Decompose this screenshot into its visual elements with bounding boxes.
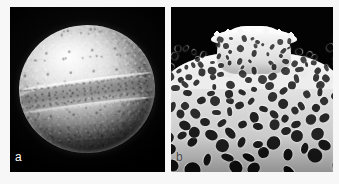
panel-a-pollen-grain: a bbox=[10, 7, 165, 172]
exine-pore bbox=[251, 86, 259, 93]
exine-pore bbox=[261, 43, 265, 47]
exine-pore bbox=[171, 51, 179, 60]
exine-pore bbox=[251, 50, 257, 57]
exine-pore bbox=[271, 65, 276, 71]
exine-pore bbox=[248, 58, 253, 63]
exine-pore bbox=[277, 39, 284, 46]
exine-pore bbox=[189, 62, 195, 69]
exine-pore bbox=[225, 89, 234, 98]
exine-pore bbox=[234, 101, 245, 111]
exine-pore bbox=[212, 84, 216, 90]
exine-pore bbox=[295, 49, 303, 57]
exine-pore bbox=[227, 60, 232, 66]
exine-pore bbox=[332, 159, 333, 171]
exine-pore bbox=[313, 66, 322, 75]
exine-pore bbox=[317, 89, 323, 97]
exine-pore bbox=[171, 85, 180, 91]
pollen-grain-body bbox=[15, 20, 160, 157]
exine-pore bbox=[226, 97, 236, 105]
grain-rim-highlight bbox=[15, 20, 160, 157]
exine-pore bbox=[302, 89, 312, 99]
exine-pore bbox=[244, 76, 252, 83]
exine-pore bbox=[195, 95, 206, 105]
exine-pore bbox=[226, 106, 232, 116]
exine-pore bbox=[223, 43, 229, 49]
exine-pore bbox=[176, 130, 188, 141]
exine-pore bbox=[283, 148, 294, 161]
exine-pore bbox=[217, 72, 224, 78]
exine-pore bbox=[175, 68, 182, 75]
exine-pore bbox=[249, 110, 260, 123]
exine-pore bbox=[287, 46, 291, 50]
exine-pore bbox=[290, 129, 305, 144]
exine-pore bbox=[310, 60, 316, 66]
exine-pore bbox=[237, 119, 248, 129]
exine-pore bbox=[191, 50, 196, 55]
exine-pore bbox=[185, 74, 192, 80]
exine-pore bbox=[245, 160, 262, 172]
exine-pore bbox=[264, 81, 275, 91]
exine-pore bbox=[171, 63, 175, 71]
exine-pore bbox=[304, 112, 319, 127]
exine-pore bbox=[236, 57, 243, 65]
exine-pore bbox=[182, 89, 192, 96]
exine-pore bbox=[198, 68, 206, 77]
exine-pore bbox=[212, 109, 221, 115]
exine-pore bbox=[225, 79, 237, 90]
exine-pore bbox=[206, 65, 217, 76]
exine-scene-background bbox=[171, 7, 333, 172]
exine-pore bbox=[267, 71, 278, 81]
exine-pore bbox=[304, 62, 308, 68]
exine-pore bbox=[183, 45, 190, 52]
exine-pore bbox=[236, 136, 247, 149]
exine-pore bbox=[276, 97, 290, 111]
exine-pore bbox=[252, 122, 263, 130]
exine-pore bbox=[181, 80, 190, 89]
exine-pore-field bbox=[171, 37, 333, 172]
exine-pore bbox=[200, 52, 207, 60]
exine-pore bbox=[188, 107, 202, 121]
exine-pore bbox=[223, 126, 237, 141]
panel-a-image: a bbox=[10, 7, 165, 172]
exine-pore bbox=[218, 63, 224, 68]
exine-pore bbox=[280, 113, 290, 124]
exine-pore bbox=[266, 52, 269, 56]
exine-pore bbox=[326, 42, 333, 52]
exine-pore bbox=[203, 152, 213, 166]
exine-pore bbox=[217, 42, 220, 48]
panel-b-image: b bbox=[171, 7, 333, 172]
exine-pore bbox=[288, 81, 297, 90]
exine-pore bbox=[229, 37, 233, 40]
exine-pore bbox=[268, 43, 274, 50]
exine-pore bbox=[268, 119, 280, 132]
sem-micrograph-figure: a b bbox=[0, 0, 339, 184]
exine-pore bbox=[282, 59, 291, 66]
exine-pore bbox=[171, 130, 175, 144]
panel-b-exine-detail: b bbox=[171, 7, 333, 172]
exine-pore bbox=[192, 78, 201, 87]
exine-pore bbox=[295, 67, 304, 74]
exine-pore bbox=[310, 103, 321, 114]
exine-pore bbox=[236, 44, 245, 53]
exine-pore bbox=[200, 117, 212, 127]
exine-pore bbox=[237, 89, 247, 98]
exine-pore bbox=[184, 162, 201, 172]
exine-pore bbox=[280, 66, 289, 75]
grain-scene-background bbox=[10, 7, 165, 172]
panel-a-label: a bbox=[15, 151, 22, 163]
exine-pore bbox=[184, 65, 189, 71]
exine-pore bbox=[247, 96, 255, 105]
exine-pore bbox=[311, 53, 318, 59]
exine-pore bbox=[216, 52, 223, 60]
exine-pore bbox=[330, 92, 333, 101]
exine-pore bbox=[278, 85, 288, 95]
exine-pore bbox=[175, 45, 180, 51]
exine-pore bbox=[281, 164, 297, 172]
exine-pore bbox=[318, 112, 331, 125]
exine-pore bbox=[171, 116, 173, 128]
exine-pore bbox=[258, 104, 269, 113]
exine-pore bbox=[332, 103, 333, 112]
exine-pore bbox=[210, 61, 215, 65]
exine-pore bbox=[287, 38, 291, 45]
panel-b-label: b bbox=[176, 151, 183, 163]
